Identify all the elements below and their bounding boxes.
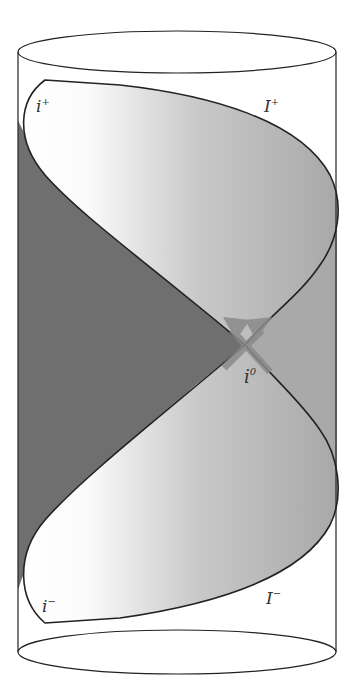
penrose-cylinder-diagram: i+ I+ i0 i− I− [0,0,357,693]
cylinder-bottom-ellipse [18,630,336,674]
cylinder-top-ellipse [18,31,336,73]
label-scri-minus: I− [265,588,281,608]
label-scri-plus: I+ [263,96,279,116]
